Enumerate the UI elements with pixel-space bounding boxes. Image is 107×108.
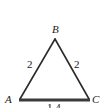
geometry-figure: B A C 2 2 1.4 <box>0 0 107 108</box>
side-length-label-ab: 2 <box>27 59 33 70</box>
vertex-label-a: A <box>5 94 12 105</box>
triangle-side-bc <box>55 39 89 99</box>
side-length-label-ac: 1.4 <box>47 102 61 108</box>
vertex-label-b: B <box>52 24 59 35</box>
triangle-shape <box>0 0 107 108</box>
side-length-label-bc: 2 <box>74 59 80 70</box>
vertex-label-c: C <box>92 94 99 105</box>
triangle-side-ab <box>20 39 55 99</box>
